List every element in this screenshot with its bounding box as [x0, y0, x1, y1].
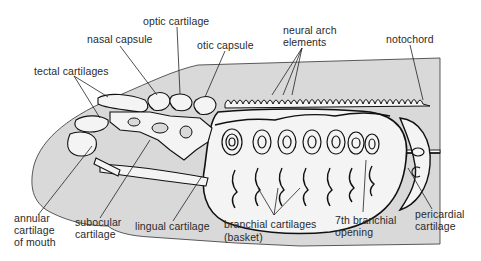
label-optic-cartilage: optic cartilage — [143, 15, 209, 27]
label-notochord: notochord — [386, 33, 434, 45]
label-pericardial-line2: cartilage — [415, 220, 456, 232]
label-branchial-line2: (basket) — [224, 231, 263, 243]
label-neural-arch-line1: neural arch — [283, 24, 337, 36]
nasal-capsule — [148, 93, 170, 111]
label-7th-branchial-line2: opening — [335, 226, 373, 238]
label-subocular-line2: cartilage — [75, 228, 116, 240]
label-annular-line2: cartilage — [14, 224, 55, 236]
lamprey-skeleton-diagram: optic cartilage nasal capsule otic capsu… — [0, 0, 481, 261]
label-pericardial-line1: pericardial — [415, 208, 465, 220]
label-neural-arch-line2: elements — [283, 36, 326, 48]
annular-cartilage — [68, 132, 97, 156]
label-nasal-capsule: nasal capsule — [87, 33, 153, 45]
label-branchial-line1: branchial cartilages — [224, 218, 316, 230]
label-annular-line1: annular — [14, 212, 50, 224]
label-tectal-cartilages: tectal cartilages — [34, 65, 109, 77]
label-7th-branchial-line1: 7th branchial — [335, 214, 396, 226]
label-annular-line3: of mouth — [14, 236, 56, 248]
tectal-cartilage-lower — [75, 116, 108, 132]
otic-capsule — [194, 97, 216, 115]
label-subocular-line1: subocular — [75, 216, 121, 228]
label-otic-capsule: otic capsule — [197, 39, 254, 51]
optic-cartilage — [170, 94, 192, 111]
label-lingual-cartilage: lingual cartilage — [135, 220, 210, 232]
